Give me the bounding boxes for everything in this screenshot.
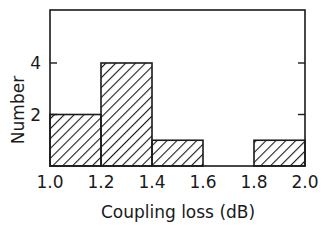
x-axis-tick-labels: 1.01.21.41.61.82.0	[36, 172, 318, 192]
histogram-bars	[50, 63, 305, 166]
histogram-bar	[152, 140, 203, 166]
y-tick-label: 2	[30, 105, 41, 125]
x-tick-label: 1.0	[36, 172, 63, 192]
x-axis-label: Coupling loss (dB)	[101, 202, 255, 222]
y-tick-label: 4	[30, 53, 41, 73]
histogram-bar	[101, 63, 152, 166]
x-tick-label: 2.0	[291, 172, 318, 192]
x-tick-label: 1.8	[240, 172, 267, 192]
x-tick-label: 1.4	[138, 172, 165, 192]
histogram-chart: 24 1.01.21.41.61.82.0 Coupling loss (dB)…	[0, 0, 323, 235]
histogram-bar	[50, 115, 101, 167]
x-tick-label: 1.2	[87, 172, 114, 192]
y-axis-label: Number	[8, 76, 28, 144]
histogram-bar	[254, 140, 305, 166]
x-tick-label: 1.6	[189, 172, 216, 192]
